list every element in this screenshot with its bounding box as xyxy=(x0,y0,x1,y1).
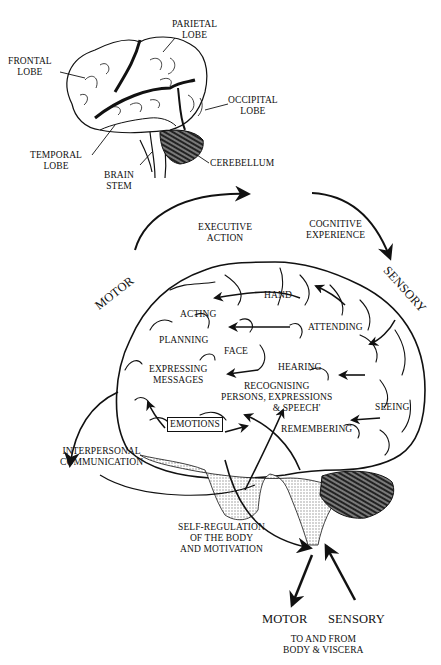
label-remembering: REMEMBERING xyxy=(281,424,352,435)
label-line: OCCIPITAL xyxy=(228,95,278,106)
label-line: INTERPERSONAL xyxy=(60,446,143,457)
label-occipital-lobe: OCCIPITAL LOBE xyxy=(228,95,278,117)
label-line: PARIETAL xyxy=(172,19,217,30)
label-self-regulation: SELF-REGULATION OF THE BODY AND MOTIVATI… xyxy=(178,522,265,555)
label-line: & SPEECH' xyxy=(221,403,332,414)
label-line: LOBE xyxy=(228,106,278,117)
label-bottom-motor: MOTOR xyxy=(262,612,307,626)
large-cerebellum xyxy=(320,471,394,518)
label-line: MESSAGES xyxy=(149,375,208,386)
label-line: TEMPORAL xyxy=(30,150,82,161)
label-line: LOBE xyxy=(172,30,217,41)
label-line: COGNITIVE xyxy=(306,219,365,230)
motor-down-arrow xyxy=(292,555,312,605)
sensory-up-arrow xyxy=(326,546,355,600)
label-line: STEM xyxy=(104,181,134,192)
cerebellum-shape xyxy=(160,130,203,164)
label-body-viscera: TO AND FROM BODY & VISCERA xyxy=(283,634,364,656)
diagram-artwork xyxy=(0,0,441,665)
label-line: RECOGNISING xyxy=(221,381,332,392)
label-line: EXPERIENCE xyxy=(306,230,365,241)
label-frontal-lobe: FRONTAL LOBE xyxy=(8,56,52,78)
label-attending: ATTENDING xyxy=(308,322,363,333)
label-hand: HAND xyxy=(264,290,292,301)
label-line: TO AND FROM xyxy=(283,634,364,645)
label-line: PERSONS, EXPRESSIONS xyxy=(221,392,332,403)
label-line: BODY & VISCERA xyxy=(283,645,364,656)
label-executive-action: EXECUTIVE ACTION xyxy=(198,222,252,244)
label-line: BRAIN xyxy=(104,170,134,181)
label-emotions: EMOTIONS xyxy=(167,417,223,432)
label-cognitive-experience: COGNITIVE EXPERIENCE xyxy=(306,219,365,241)
label-line: SELF-REGULATION xyxy=(178,522,265,533)
label-line: COMMUNICATION xyxy=(60,457,143,468)
label-acting: ACTING xyxy=(180,309,217,320)
label-planning: PLANNING xyxy=(159,335,208,346)
label-line: OF THE BODY xyxy=(178,533,265,544)
label-line: LOBE xyxy=(8,67,52,78)
label-cerebellum: CEREBELLUM xyxy=(210,158,274,169)
label-brain-stem: BRAIN STEM xyxy=(104,170,134,192)
label-recognising: RECOGNISING PERSONS, EXPRESSIONS & SPEEC… xyxy=(221,381,332,414)
label-line: EXECUTIVE xyxy=(198,222,252,233)
label-line: LOBE xyxy=(30,161,82,172)
label-seeing: SEEING xyxy=(375,402,409,413)
label-parietal-lobe: PARIETAL LOBE xyxy=(172,19,217,41)
label-line: ACTION xyxy=(198,233,252,244)
label-bottom-sensory: SENSORY xyxy=(328,612,385,626)
label-expressing-messages: EXPRESSING MESSAGES xyxy=(149,364,208,386)
label-line: EXPRESSING xyxy=(149,364,208,375)
label-temporal-lobe: TEMPORAL LOBE xyxy=(30,150,82,172)
label-face: FACE xyxy=(224,346,248,357)
label-hearing: HEARING xyxy=(278,362,321,373)
label-interpersonal-communication: INTERPERSONAL COMMUNICATION xyxy=(60,446,143,468)
label-line: FRONTAL xyxy=(8,56,52,67)
label-line: AND MOTIVATION xyxy=(178,544,265,555)
